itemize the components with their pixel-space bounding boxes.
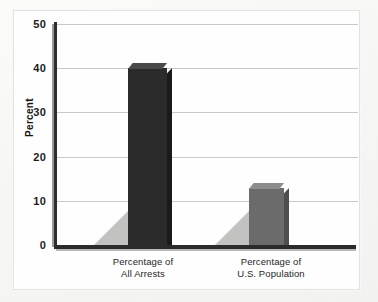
- bar-shadow-1: [94, 211, 128, 245]
- plot-area: [57, 24, 358, 245]
- category-label-us-population-line1: Percentage of: [212, 256, 330, 268]
- category-label-us-population-line2: U.S. Population: [212, 268, 330, 280]
- x-axis-line: [54, 245, 356, 249]
- bar-chart-figure: Percent 50 40 30 20 10 0 Percentag: [0, 0, 378, 302]
- bar-side-face-1: [167, 68, 172, 245]
- gridline-40: [57, 68, 358, 69]
- gridline-10: [57, 201, 358, 202]
- bar-front-2: [249, 188, 284, 245]
- y-tick-label-30: 30: [12, 107, 46, 118]
- category-label-all-arrests: Percentage of All Arrests: [88, 256, 198, 280]
- category-label-all-arrests-line2: All Arrests: [88, 268, 198, 280]
- bar-shadow-2: [215, 211, 249, 245]
- category-label-all-arrests-line1: Percentage of: [88, 256, 198, 268]
- bar-top-face-2: [249, 183, 284, 189]
- bar-front-1: [128, 68, 167, 245]
- y-tick-label-40: 40: [12, 63, 46, 74]
- gridline-30: [57, 112, 358, 113]
- x-axis-shadow: [56, 249, 356, 251]
- y-tick-label-50: 50: [12, 19, 46, 30]
- bar-side-face-2: [284, 188, 289, 245]
- gridline-50: [57, 24, 358, 25]
- y-tick-label-0: 0: [12, 240, 46, 251]
- bar-percentage-of-all-arrests: [128, 68, 167, 245]
- bar-top-face-1: [128, 63, 167, 69]
- category-label-us-population: Percentage of U.S. Population: [212, 256, 330, 280]
- y-tick-label-10: 10: [12, 196, 46, 207]
- y-tick-label-20: 20: [12, 152, 46, 163]
- y-axis-line: [54, 22, 57, 247]
- bar-percentage-of-us-population: [249, 188, 284, 245]
- gridline-20: [57, 157, 358, 158]
